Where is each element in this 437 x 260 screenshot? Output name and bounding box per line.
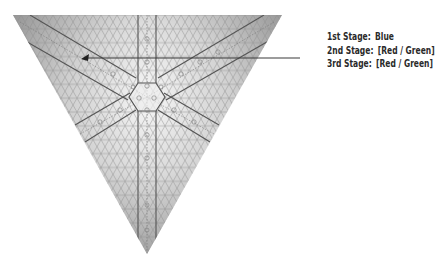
triangle-body xyxy=(0,0,300,260)
stage-1-value: Blue xyxy=(375,30,394,42)
stage-3-label: 3rd Stage:[Red / Green] xyxy=(327,57,435,71)
stage-2-label: 2nd Stage:[Red / Green] xyxy=(327,44,435,58)
stage-3-value: [Red / Green] xyxy=(376,57,433,69)
stage-legend: 1st Stage:Blue 2nd Stage:[Red / Green] 3… xyxy=(327,30,437,71)
stage-2-value: [Red / Green] xyxy=(378,44,435,56)
stage-1-label: 1st Stage:Blue xyxy=(327,30,435,44)
